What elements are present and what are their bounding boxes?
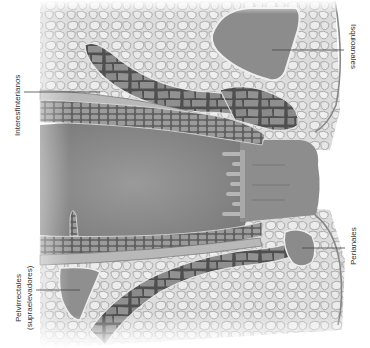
label-pelvirrectales-line2: (supraelevadores) xyxy=(25,266,34,330)
anal-canal xyxy=(240,140,320,222)
label-interesfinterianos: Interesfinterianos xyxy=(13,75,22,136)
label-pelvirrectales-line1: Pelvirrectales xyxy=(14,274,23,322)
label-isquioanales: Isquioanales xyxy=(349,24,358,69)
anorectal-illustration xyxy=(0,0,370,348)
label-perianales: Perianales xyxy=(349,227,358,265)
anatomy-figure: Isquioanales Interesfinterianos Pelvirre… xyxy=(0,0,370,348)
